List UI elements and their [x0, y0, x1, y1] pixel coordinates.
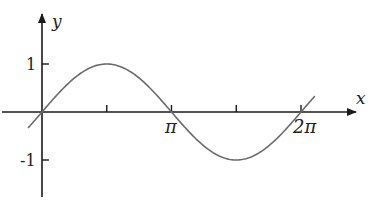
x-tick-label-pi: π [164, 116, 178, 137]
x-axis-label: x [356, 88, 366, 108]
x-ticks [107, 105, 301, 112]
y-axis-label: y [51, 11, 62, 31]
sine-chart: x y π 2π 1 -1 [0, 0, 374, 203]
y-tick-label-1: 1 [26, 55, 36, 74]
y-tick-label-neg1: -1 [20, 151, 36, 170]
x-tick-label-2pi: 2π [292, 116, 317, 137]
